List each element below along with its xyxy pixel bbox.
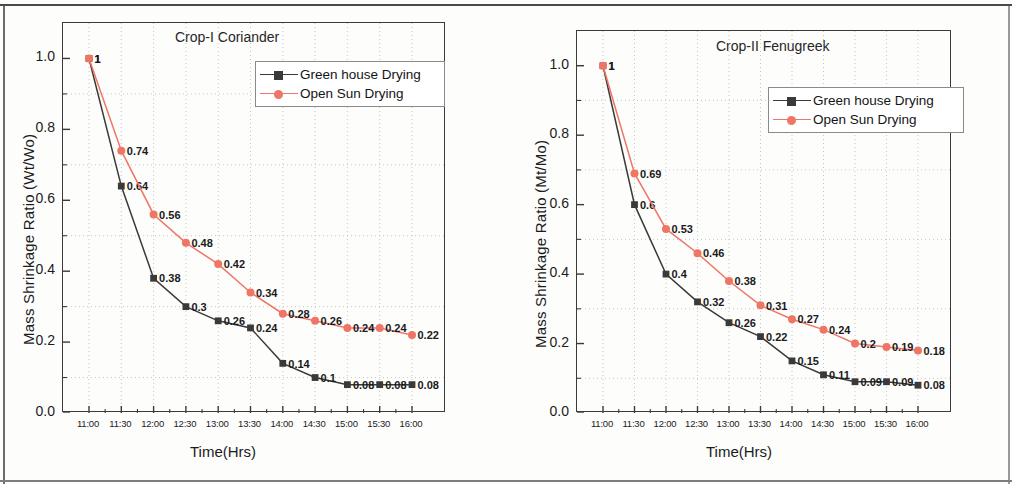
svg-text:0.27: 0.27 [798,313,819,325]
legend-item-green-house[interactable]: Green house Drying [260,65,438,84]
svg-text:0.26: 0.26 [735,317,756,329]
svg-text:0.34: 0.34 [256,287,278,299]
y-tick-label: 0.4 [535,264,569,280]
svg-text:0.08: 0.08 [418,379,439,391]
y-tick-label: 0.6 [535,195,569,211]
y-tick-label: 0.2 [21,332,55,348]
y-tick-label: 0.8 [21,119,55,135]
svg-text:0.28: 0.28 [288,308,309,320]
y-tick-label: 0.8 [535,125,569,141]
svg-text:0.08: 0.08 [385,379,406,391]
svg-text:0.42: 0.42 [224,258,245,270]
svg-text:0.08: 0.08 [924,379,945,391]
svg-text:0.38: 0.38 [735,275,756,287]
y-axis-title-left: Mass Shrinkage Ratio (Wt/Wo) [20,134,37,345]
svg-text:0.15: 0.15 [798,355,819,367]
svg-text:1: 1 [609,60,615,72]
svg-text:1: 1 [95,53,101,65]
svg-text:0.32: 0.32 [703,296,724,308]
legend-item-open-sun[interactable]: Open Sun Drying [773,110,957,129]
legend-label-open-sun: Open Sun Drying [298,86,404,101]
svg-text:0.22: 0.22 [766,331,787,343]
legend-label-open-sun: Open Sun Drying [811,112,917,127]
svg-text:0.2: 0.2 [861,338,876,350]
svg-text:0.22: 0.22 [418,329,439,341]
svg-text:0.11: 0.11 [829,369,850,381]
svg-text:0.24: 0.24 [353,322,375,334]
svg-text:0.48: 0.48 [191,237,212,249]
svg-text:0.18: 0.18 [924,345,945,357]
svg-text:0.19: 0.19 [892,341,913,353]
y-axis-title-right: Mass Shrinkage Ratio (Mt/Mo) [532,140,549,348]
svg-text:0.09: 0.09 [861,376,882,388]
legend-swatch-square-icon [260,68,298,82]
legend-swatch-circle-icon [260,87,298,101]
y-tick-label: 0.0 [535,403,569,419]
legend-swatch-circle-icon [773,113,811,127]
svg-text:0.4: 0.4 [672,268,688,280]
svg-text:0.14: 0.14 [288,358,310,370]
svg-text:0.24: 0.24 [385,322,407,334]
x-tick-label: 16:00 [897,418,937,429]
y-tick-label: 1.0 [21,48,55,64]
svg-text:0.31: 0.31 [766,300,787,312]
svg-text:0.3: 0.3 [191,301,206,313]
x-tick-label: 16:00 [391,418,431,429]
y-tick-label: 1.0 [535,56,569,72]
legend-swatch-square-icon [773,94,811,108]
y-tick-label: 0.0 [21,403,55,419]
svg-text:0.38: 0.38 [159,272,180,284]
svg-text:0.24: 0.24 [829,324,851,336]
legend-left: Green house Drying Open Sun Drying [255,61,445,107]
svg-text:0.53: 0.53 [672,223,693,235]
legend-label-green-house: Green house Drying [298,67,421,82]
chart-panel-crop-ii: Mass Shrinkage Ratio (Mt/Mo) Crop-II Fen… [506,0,1012,470]
svg-text:0.46: 0.46 [703,247,724,259]
x-axis-title-right: Time(Hrs) [706,443,772,460]
legend-item-open-sun[interactable]: Open Sun Drying [260,84,438,103]
svg-text:0.24: 0.24 [256,322,278,334]
svg-text:0.08: 0.08 [353,379,374,391]
svg-text:0.26: 0.26 [224,315,245,327]
legend-right: Green house Drying Open Sun Drying [768,87,964,133]
scanned-figure-page: Mass Shrinkage Ratio (Wt/Wo) Crop-I Cori… [0,0,1012,484]
svg-text:0.74: 0.74 [127,145,149,157]
y-tick-label: 0.6 [21,190,55,206]
svg-text:0.69: 0.69 [640,168,661,180]
legend-label-green-house: Green house Drying [811,93,934,108]
y-tick-label: 0.4 [21,261,55,277]
x-axis-title-left: Time(Hrs) [190,443,256,460]
svg-text:0.09: 0.09 [892,376,913,388]
chart-panel-crop-i: Mass Shrinkage Ratio (Wt/Wo) Crop-I Cori… [0,0,506,470]
svg-text:0.1: 0.1 [321,372,336,384]
svg-text:0.56: 0.56 [159,209,180,221]
y-tick-label: 0.2 [535,334,569,350]
figure-panels: Mass Shrinkage Ratio (Wt/Wo) Crop-I Cori… [0,0,1012,484]
svg-text:0.26: 0.26 [321,315,342,327]
legend-item-green-house[interactable]: Green house Drying [773,91,957,110]
